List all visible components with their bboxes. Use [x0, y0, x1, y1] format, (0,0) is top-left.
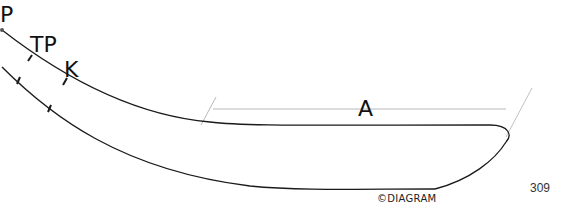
profile-drawing [0, 0, 566, 212]
label-k: K [64, 59, 78, 81]
tick-mark-lower-2 [48, 105, 51, 112]
label-p: P [0, 4, 13, 26]
copyright-notice: ©DIAGRAM [377, 193, 436, 204]
profile-lower-edge [2, 67, 435, 189]
diagram-canvas: P TP K A ©DIAGRAM 309 [0, 0, 566, 212]
label-a: A [358, 98, 373, 120]
dimension-extension-right [506, 88, 532, 137]
point-p-marker [0, 28, 4, 32]
page-number: 309 [530, 181, 550, 195]
profile-tip-curve [435, 142, 506, 189]
profile-upper-edge [2, 30, 509, 142]
label-tp: TP [30, 34, 57, 56]
